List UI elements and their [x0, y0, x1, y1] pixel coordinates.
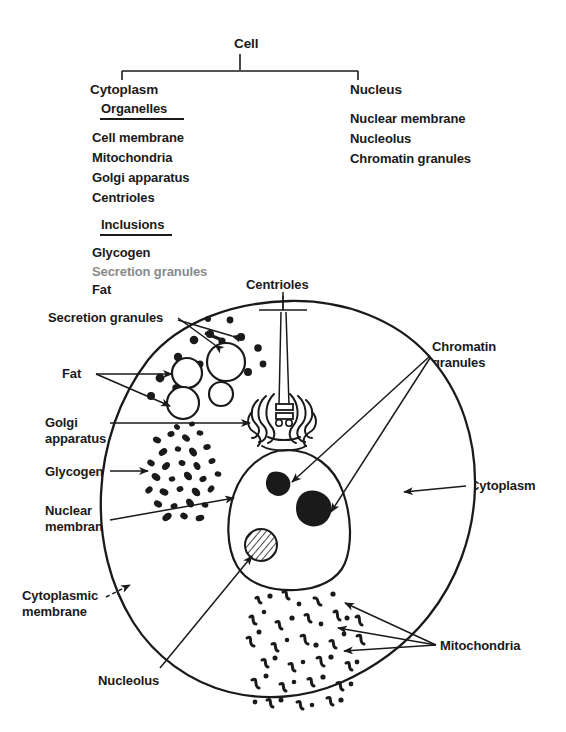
chart-item-nucleolus: Nucleolus	[350, 131, 411, 146]
label-cytoplasm: Cytoplasm	[470, 478, 536, 493]
chart-item-secretion-granules: Secretion granules	[92, 264, 207, 279]
nucleolus-shape	[245, 529, 277, 561]
organelles-underline	[100, 118, 184, 120]
chart-item-golgi-apparatus: Golgi apparatus	[92, 170, 189, 185]
mitochondria-shapes	[247, 591, 364, 709]
inclusions-underline	[100, 234, 172, 236]
chart-item-nuclear-membrane: Nuclear membrane	[350, 111, 465, 126]
cell-membrane-outline	[101, 301, 475, 697]
chart-root-label: Cell	[234, 36, 258, 51]
fat-droplets	[167, 343, 245, 419]
label-chromatin-granules-line1: Chromatin	[432, 339, 496, 354]
leader-cytoplasmic-membrane	[106, 585, 130, 597]
nuclear-membrane	[228, 450, 350, 590]
mitochondria-dots	[253, 591, 360, 707]
classification-bracket	[122, 54, 358, 80]
chart-item-cell-membrane: Cell membrane	[92, 130, 184, 145]
chart-branch-nucleus: Nucleus	[350, 82, 402, 97]
secretion-granules	[147, 316, 266, 407]
chart-item-fat: Fat	[92, 282, 111, 297]
leader-fat-2	[96, 374, 170, 406]
figure-page: Cell Cytoplasm Nucleus Organelles Cell m…	[0, 0, 566, 732]
label-mitochondria: Mitochondria	[440, 638, 520, 653]
label-nuclear-membrane-line2: membrane	[45, 519, 110, 534]
leader-secretion-1	[178, 318, 215, 345]
chart-item-centrioles: Centrioles	[92, 190, 155, 205]
chart-branch-cytoplasm: Cytoplasm	[90, 82, 158, 97]
label-secretion-granules: Secretion granules	[48, 310, 163, 325]
centrioles-shape	[259, 296, 307, 426]
label-cytoplasmic-membrane-line1: Cytoplasmic	[22, 588, 98, 603]
chart-heading-organelles: Organelles	[101, 101, 167, 116]
label-golgi-apparatus-line1: Golgi	[45, 415, 78, 430]
label-glycogen: Glycogen	[45, 464, 103, 479]
chart-item-mitochondria: Mitochondria	[92, 150, 172, 165]
chart-item-glycogen: Glycogen	[92, 245, 150, 260]
label-nucleolus: Nucleolus	[98, 673, 159, 688]
leader-nucleolus	[160, 556, 252, 668]
label-golgi-apparatus-line2: apparatus	[45, 431, 106, 446]
chart-item-chromatin-granules: Chromatin granules	[350, 151, 471, 166]
leader-chromatin-1	[292, 356, 430, 482]
chromatin-granules	[266, 471, 332, 526]
label-nuclear-membrane-line1: Nuclear	[45, 503, 92, 518]
label-cytoplasmic-membrane-line2: membrane	[22, 604, 87, 619]
leader-lines	[96, 292, 466, 668]
leader-nuclear-membrane	[110, 498, 234, 520]
label-fat: Fat	[62, 366, 81, 381]
label-chromatin-granules-line2: granules	[432, 355, 485, 370]
leader-mito-2	[338, 628, 436, 645]
chart-heading-inclusions: Inclusions	[101, 217, 164, 232]
leader-cytoplasm	[404, 486, 466, 492]
leader-secretion-2	[178, 320, 232, 336]
glycogen-granules	[144, 421, 222, 523]
leader-mito-3	[344, 645, 436, 651]
golgi-apparatus-shape	[248, 394, 316, 451]
label-centrioles: Centrioles	[246, 277, 309, 292]
leader-chromatin-2	[331, 358, 430, 512]
leader-mito-1	[345, 603, 436, 645]
